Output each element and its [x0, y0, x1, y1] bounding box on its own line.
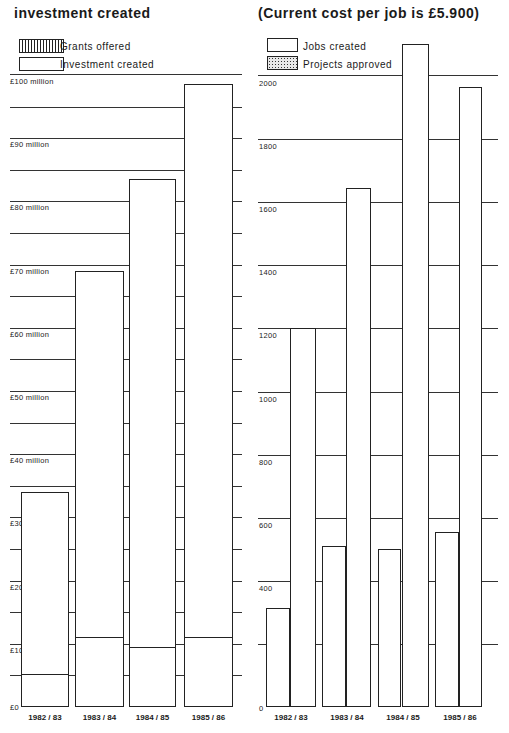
projects-bar: [435, 532, 459, 707]
x-axis-label: 1984 / 85: [373, 713, 433, 722]
investment-bar: [129, 179, 176, 707]
investment-bar: [184, 84, 233, 707]
legend-investment-label: Investment created: [60, 59, 154, 70]
jobs-bar: [290, 328, 316, 707]
legend-jobs-swatch: [267, 38, 298, 52]
y-tick-label: 1600: [259, 205, 277, 214]
legend-projects-swatch: [267, 56, 298, 70]
x-axis-label: 1983 / 84: [70, 713, 130, 722]
y-tick-label: 1200: [259, 331, 277, 340]
right-chart-title: (Current cost per job is £5.900): [258, 5, 479, 21]
jobs-bar: [346, 188, 371, 707]
jobs-bar: [402, 44, 429, 707]
y-tick-label: 400: [259, 584, 272, 593]
x-axis-label: 1985 / 86: [179, 713, 239, 722]
legend-investment-swatch: [19, 57, 64, 71]
y-tick-label: 2000: [259, 79, 277, 88]
y-tick-label: 0: [259, 704, 263, 713]
y-tick-label: £90 million: [10, 140, 49, 149]
projects-bar: [378, 549, 401, 707]
grants-bar: [21, 674, 69, 707]
chart-top-rule: [258, 75, 498, 76]
y-tick-label: £70 million: [10, 267, 49, 276]
x-axis-label: 1982 / 83: [15, 713, 75, 722]
grants-bar: [129, 647, 176, 707]
jobs-bar: [459, 87, 482, 707]
x-axis-label: 1985 / 86: [430, 713, 490, 722]
projects-bar: [322, 546, 346, 707]
y-tick-label: 1000: [259, 395, 277, 404]
legend-jobs-label: Jobs created: [303, 41, 366, 52]
legend-grants-label: Grants offered: [60, 41, 131, 52]
y-tick-label: 800: [259, 458, 272, 467]
y-tick-label: 1800: [259, 142, 277, 151]
grants-bar: [75, 637, 124, 707]
y-tick-label: 1400: [259, 268, 277, 277]
left-chart-title: investment created: [14, 5, 151, 21]
chart-top-rule: [10, 74, 242, 75]
y-tick-label: £0: [10, 703, 19, 712]
y-tick-label: £80 million: [10, 203, 49, 212]
legend-grants-swatch: [19, 39, 64, 53]
x-axis-label: 1982 / 83: [261, 713, 321, 722]
legend-projects-label: Projects approved: [303, 59, 392, 70]
x-axis-label: 1983 / 84: [317, 713, 377, 722]
y-tick-label: £60 million: [10, 330, 49, 339]
y-tick-label: £40 million: [10, 456, 49, 465]
projects-bar: [266, 608, 290, 707]
y-tick-label: £100 million: [10, 77, 54, 86]
y-tick-label: 600: [259, 521, 272, 530]
x-axis-label: 1984 / 85: [123, 713, 183, 722]
grants-bar: [184, 637, 233, 707]
y-tick-label: £50 million: [10, 393, 49, 402]
